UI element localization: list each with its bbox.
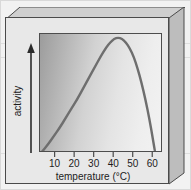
x-axis-tick-label: 10 — [49, 158, 60, 170]
x-axis-tick-label: 30 — [88, 158, 99, 170]
x-axis-tick-label: 20 — [69, 158, 80, 170]
activity-curve — [40, 34, 162, 152]
figure-screenshot: 102030405060 temperature (°C) activity — [0, 0, 191, 190]
y-axis-title-text: activity — [12, 86, 24, 117]
slab-right-bevel — [169, 7, 185, 185]
x-axis-title: temperature (°C) — [20, 170, 166, 183]
slab-front-face: 102030405060 temperature (°C) activity — [5, 17, 169, 184]
plot-area — [39, 33, 162, 152]
x-axis-tick-label: 50 — [127, 158, 138, 170]
x-axis-tick-label: 60 — [147, 158, 158, 170]
y-axis-title: activity — [11, 63, 25, 139]
x-axis-tick-label: 40 — [108, 158, 119, 170]
y-axis-arrow-icon — [25, 43, 37, 153]
three-d-slab: 102030405060 temperature (°C) activity — [5, 7, 185, 185]
